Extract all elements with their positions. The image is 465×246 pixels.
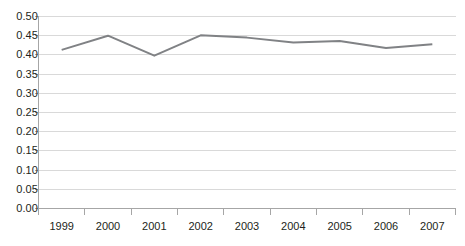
x-axis-tick-label: 2000 — [96, 221, 120, 232]
x-axis-labels: 199920002001200220032004200520062007 — [0, 0, 465, 246]
x-axis-tick-label: 2002 — [188, 221, 212, 232]
x-axis-tick-label: 2004 — [281, 221, 305, 232]
x-axis-tick-label: 2005 — [327, 221, 351, 232]
x-axis-tick-label: 1999 — [49, 221, 73, 232]
x-axis-tick-label: 2003 — [235, 221, 259, 232]
x-axis-tick-label: 2006 — [374, 221, 398, 232]
x-axis-tick-label: 2007 — [420, 221, 444, 232]
x-axis-tick-label: 2001 — [142, 221, 166, 232]
line-chart: 0.500.450.400.350.300.250.200.150.100.05… — [0, 0, 465, 246]
